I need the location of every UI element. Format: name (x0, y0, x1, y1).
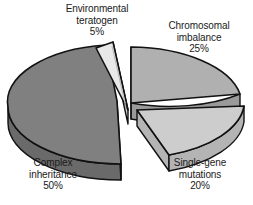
pie-label-chromosomal-line2: imbalance (147, 32, 251, 44)
pie-label-singlegene-line1: Single-gene (150, 157, 250, 169)
pie-label-complex-line1: Complex (3, 157, 103, 169)
pie-label-environmental: Environmental teratogen 5% (47, 3, 147, 38)
pie-slice-chromosomal-top (131, 47, 240, 103)
pie-label-environmental-value: 5% (47, 26, 147, 38)
pie-label-chromosomal: Chromosomal imbalance 25% (147, 20, 251, 55)
pie-label-complex-line2: inheritance (3, 169, 103, 181)
pie-label-environmental-line1: Environmental (47, 3, 147, 15)
pie-chart: Environmental teratogen 5% Chromosomal i… (0, 0, 253, 205)
pie-label-chromosomal-line1: Chromosomal (147, 20, 251, 32)
pie-label-singlegene: Single-gene mutations 20% (150, 157, 250, 192)
pie-label-chromosomal-value: 25% (147, 43, 251, 55)
pie-label-environmental-line2: teratogen (47, 15, 147, 27)
pie-label-singlegene-value: 20% (150, 180, 250, 192)
pie-label-complex: Complex inheritance 50% (3, 157, 103, 192)
pie-label-singlegene-line2: mutations (150, 169, 250, 181)
pie-label-complex-value: 50% (3, 180, 103, 192)
